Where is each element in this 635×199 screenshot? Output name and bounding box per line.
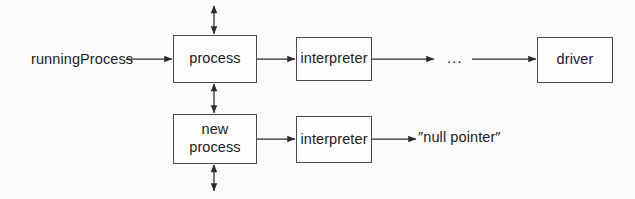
node-new-process-label: new process bbox=[189, 121, 240, 156]
label-ellipsis: ... bbox=[447, 50, 463, 66]
node-process[interactable]: process bbox=[173, 35, 257, 83]
node-process-label: process bbox=[189, 50, 240, 68]
node-interpreter-1[interactable]: interpreter bbox=[296, 37, 372, 81]
node-new-process[interactable]: new process bbox=[173, 114, 257, 164]
label-running-process: runningProcess bbox=[31, 51, 133, 67]
label-null-pointer: ″null pointer″ bbox=[418, 129, 501, 145]
diagram-connectors bbox=[0, 0, 635, 199]
diagram-canvas: process interpreter driver new process i… bbox=[0, 0, 635, 199]
node-driver-label: driver bbox=[557, 51, 594, 69]
node-interpreter-2-label: interpreter bbox=[300, 131, 367, 149]
node-driver[interactable]: driver bbox=[537, 37, 613, 83]
node-interpreter-1-label: interpreter bbox=[300, 50, 367, 68]
node-interpreter-2[interactable]: interpreter bbox=[296, 116, 372, 163]
